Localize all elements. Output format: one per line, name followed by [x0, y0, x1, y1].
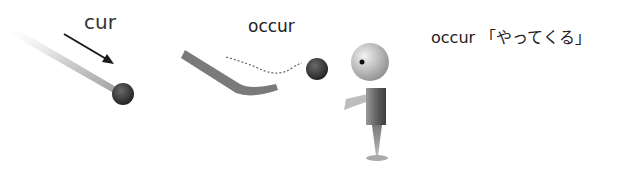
- leg: [372, 125, 382, 156]
- panel-occur: [181, 50, 328, 95]
- meaning-gloss: 「やってくる」: [480, 28, 591, 47]
- bat-icon: [181, 50, 278, 95]
- label-occur-meaning: occur 「やってくる」: [431, 24, 591, 48]
- label-cur: cur: [84, 10, 116, 34]
- ball-icon: [112, 83, 134, 105]
- foot: [366, 155, 388, 161]
- panel-cur: [5, 22, 134, 105]
- arrow-icon: [64, 34, 114, 64]
- meaning-word: occur: [431, 28, 475, 47]
- person-figure: [344, 43, 389, 161]
- etymology-illustration: cur occur occur 「やってくる」: [0, 0, 620, 169]
- eye: [360, 60, 365, 65]
- label-occur: occur: [248, 16, 295, 36]
- arm: [344, 94, 368, 110]
- torso: [366, 88, 386, 125]
- ball-path-dotted: [226, 57, 302, 73]
- head: [351, 43, 389, 81]
- ball-icon: [306, 58, 328, 80]
